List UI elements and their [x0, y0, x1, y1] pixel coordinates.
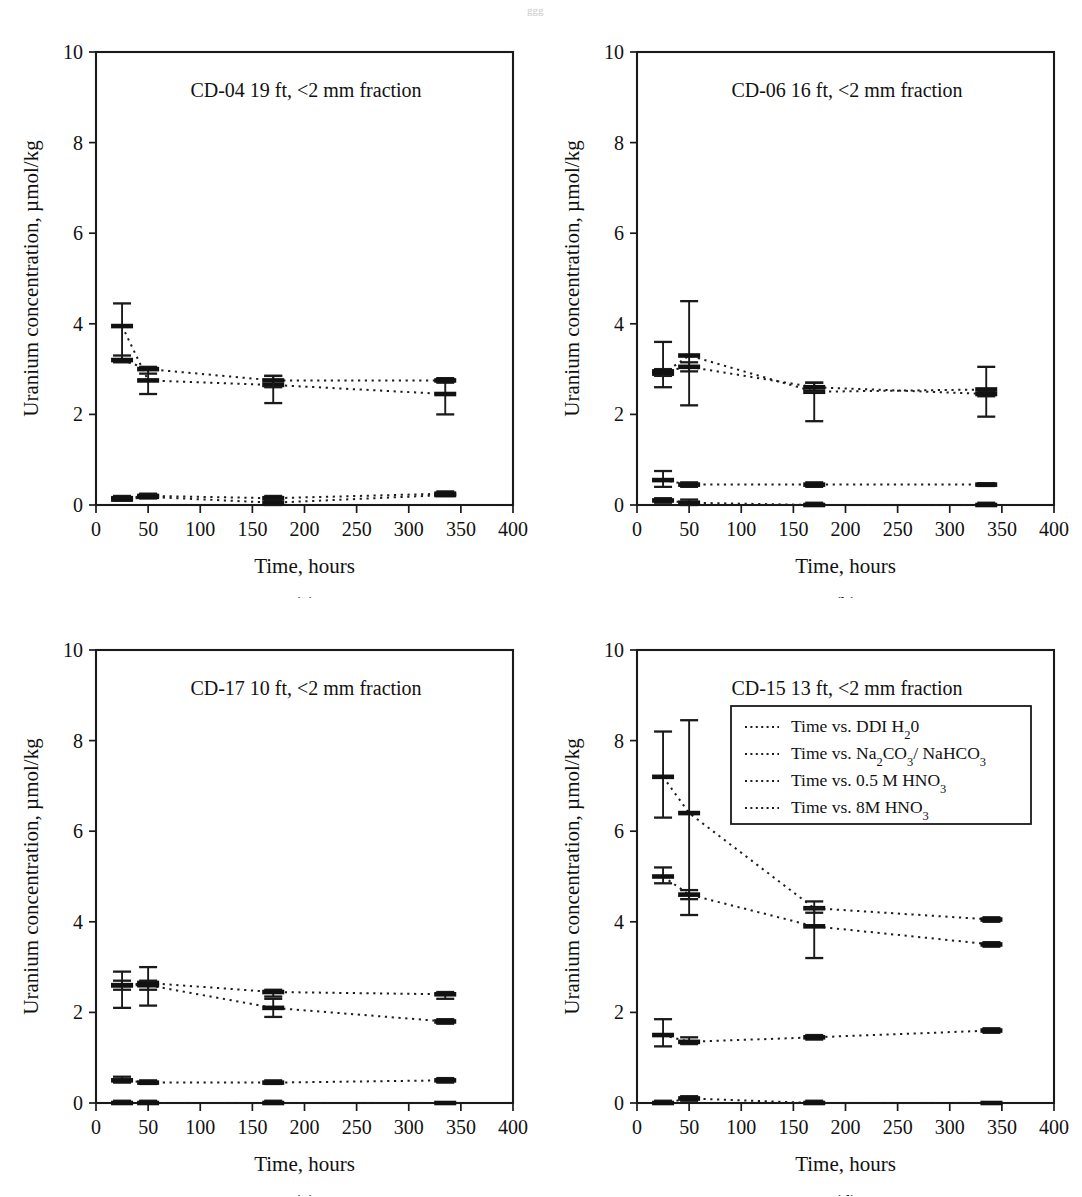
x-tick-label: 250 — [342, 1116, 372, 1138]
x-tick-label: 100 — [726, 518, 756, 540]
x-tick-label: 200 — [290, 1116, 320, 1138]
panel-title: CD-17 10 ft, <2 mm fraction — [190, 677, 421, 699]
x-axis-title: Time, hours — [795, 554, 896, 578]
x-tick-label: 350 — [987, 1116, 1017, 1138]
plot-frame — [96, 52, 513, 505]
x-tick-label: 200 — [831, 518, 861, 540]
y-tick-label: 0 — [73, 1092, 83, 1114]
y-tick-label: 2 — [73, 403, 83, 425]
series-0 — [111, 303, 456, 414]
plot-canvas-a: 0246810050100150200250300350400Time, hou… — [0, 0, 541, 598]
y-tick-label: 2 — [614, 403, 624, 425]
y-tick-label: 6 — [614, 222, 624, 244]
y-tick-label: 8 — [73, 132, 83, 154]
series-1 — [111, 356, 456, 388]
x-tick-label: 250 — [883, 518, 913, 540]
x-tick-label: 400 — [1039, 1116, 1069, 1138]
x-tick-label: 0 — [91, 1116, 101, 1138]
x-tick-label: 300 — [935, 1116, 965, 1138]
y-axis-title: Uranium concentration, µmol/kg — [19, 738, 43, 1015]
y-tick-label: 0 — [73, 494, 83, 516]
panel-title: CD-06 16 ft, <2 mm fraction — [731, 79, 962, 101]
y-tick-label: 4 — [614, 911, 624, 933]
series-line — [663, 1031, 991, 1042]
panel-caption: (c) — [294, 1191, 315, 1196]
plot-frame — [637, 52, 1054, 505]
x-tick-label: 50 — [138, 1116, 158, 1138]
x-tick-label: 350 — [446, 1116, 476, 1138]
x-tick-label: 400 — [498, 518, 528, 540]
x-tick-label: 300 — [394, 1116, 424, 1138]
y-tick-label: 10 — [63, 41, 83, 63]
x-tick-label: 50 — [138, 518, 158, 540]
x-tick-label: 0 — [91, 518, 101, 540]
panel-a: 0246810050100150200250300350400Time, hou… — [0, 0, 541, 598]
series-line — [663, 877, 991, 945]
series-1 — [652, 867, 1002, 958]
y-tick-label: 0 — [614, 494, 624, 516]
panel-caption: (d) — [834, 1191, 856, 1196]
x-tick-label: 0 — [632, 518, 642, 540]
series-2 — [652, 1019, 1002, 1046]
panel-b: 0246810050100150200250300350400Time, hou… — [541, 0, 1082, 598]
x-tick-label: 150 — [237, 1116, 267, 1138]
x-tick-label: 150 — [778, 518, 808, 540]
y-tick-label: 10 — [604, 41, 624, 63]
x-tick-label: 200 — [831, 1116, 861, 1138]
x-tick-label: 250 — [342, 518, 372, 540]
y-tick-label: 8 — [73, 730, 83, 752]
y-tick-label: 0 — [614, 1092, 624, 1114]
y-axis-title: Uranium concentration, µmol/kg — [560, 738, 584, 1015]
panel-d: 0246810050100150200250300350400Time, hou… — [541, 598, 1082, 1196]
x-tick-label: 400 — [498, 1116, 528, 1138]
series-2 — [652, 471, 997, 487]
x-axis-title: Time, hours — [254, 1152, 355, 1176]
panel-c: 0246810050100150200250300350400Time, hou… — [0, 598, 541, 1196]
y-tick-label: 6 — [73, 222, 83, 244]
x-tick-label: 400 — [1039, 518, 1069, 540]
y-tick-label: 4 — [73, 313, 83, 335]
y-tick-label: 6 — [73, 820, 83, 842]
y-tick-label: 4 — [614, 313, 624, 335]
x-tick-label: 150 — [237, 518, 267, 540]
series-2 — [111, 1077, 456, 1084]
series-0 — [652, 301, 997, 421]
panel-title: CD-15 13 ft, <2 mm fraction — [731, 677, 962, 699]
x-tick-label: 250 — [883, 1116, 913, 1138]
plot-canvas-d: 0246810050100150200250300350400Time, hou… — [541, 598, 1082, 1196]
y-tick-label: 2 — [73, 1001, 83, 1023]
plot-frame — [96, 650, 513, 1103]
x-tick-label: 350 — [446, 518, 476, 540]
figure-grid: 0246810050100150200250300350400Time, hou… — [0, 0, 1082, 1197]
y-tick-label: 2 — [614, 1001, 624, 1023]
plot-canvas-c: 0246810050100150200250300350400Time, hou… — [0, 598, 541, 1196]
y-axis-title: Uranium concentration, µmol/kg — [560, 140, 584, 417]
y-tick-label: 10 — [604, 639, 624, 661]
y-tick-label: 8 — [614, 730, 624, 752]
x-tick-label: 100 — [185, 1116, 215, 1138]
x-axis-title: Time, hours — [795, 1152, 896, 1176]
x-axis-title: Time, hours — [254, 554, 355, 578]
x-tick-label: 0 — [632, 1116, 642, 1138]
x-tick-label: 300 — [394, 518, 424, 540]
y-tick-label: 6 — [614, 820, 624, 842]
x-tick-label: 150 — [778, 1116, 808, 1138]
series-1 — [111, 981, 456, 1024]
x-tick-label: 50 — [679, 1116, 699, 1138]
y-tick-label: 4 — [73, 911, 83, 933]
y-tick-label: 8 — [614, 132, 624, 154]
plot-canvas-b: 0246810050100150200250300350400Time, hou… — [541, 0, 1082, 598]
x-tick-label: 100 — [185, 518, 215, 540]
series-line — [122, 360, 445, 380]
series-2 — [111, 491, 456, 500]
x-tick-label: 100 — [726, 1116, 756, 1138]
y-tick-label: 10 — [63, 639, 83, 661]
x-tick-label: 50 — [679, 518, 699, 540]
panel-title: CD-04 19 ft, <2 mm fraction — [190, 79, 421, 101]
x-tick-label: 350 — [987, 518, 1017, 540]
x-tick-label: 200 — [290, 518, 320, 540]
y-axis-title: Uranium concentration, µmol/kg — [19, 140, 43, 417]
x-tick-label: 300 — [935, 518, 965, 540]
